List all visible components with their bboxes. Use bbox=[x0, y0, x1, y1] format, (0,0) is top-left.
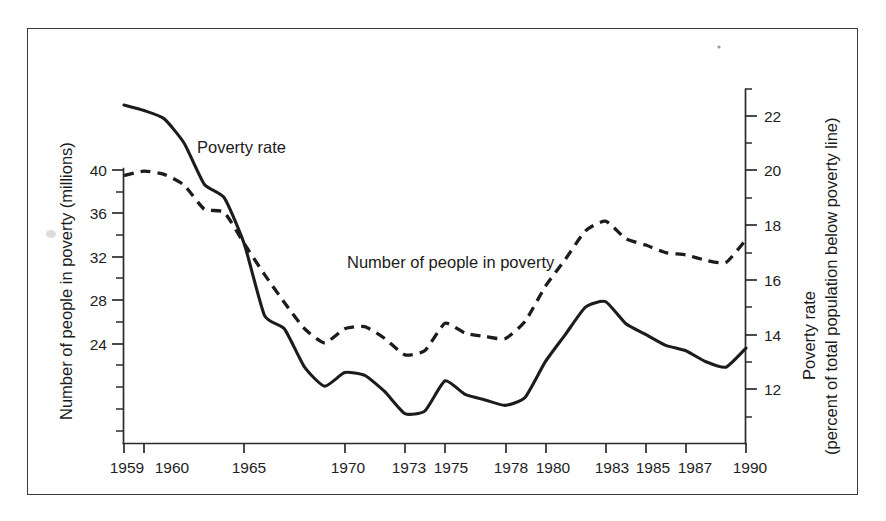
series-annotation-number-in-poverty: Number of people in poverty bbox=[347, 253, 555, 271]
right-axis-tick-labels: 22 20 18 16 14 12 bbox=[764, 108, 782, 398]
x-tick-label-1975: 1975 bbox=[434, 459, 468, 476]
right-tick-label-18: 18 bbox=[764, 217, 781, 234]
left-tick-label-32: 32 bbox=[90, 249, 107, 266]
x-tick-label-1990: 1990 bbox=[733, 459, 768, 476]
right-axis-ticks bbox=[745, 89, 757, 417]
left-axis-ticks bbox=[112, 170, 123, 431]
x-tick-label-1985: 1985 bbox=[636, 459, 670, 476]
left-tick-label-24: 24 bbox=[90, 336, 108, 353]
left-axis-title: Number of people in poverty (millions) bbox=[57, 142, 75, 420]
left-tick-label-28: 28 bbox=[90, 292, 107, 309]
series-annotation-poverty-rate: Poverty rate bbox=[197, 138, 286, 156]
chart-canvas: 40 36 32 28 24 22 20 18 16 14 bbox=[0, 0, 886, 521]
right-axis-title-line1: Poverty rate bbox=[800, 291, 818, 380]
right-tick-label-22: 22 bbox=[764, 108, 781, 125]
right-tick-label-14: 14 bbox=[764, 327, 782, 344]
right-tick-label-12: 12 bbox=[764, 381, 781, 398]
left-axis-tick-labels: 40 36 32 28 24 bbox=[90, 162, 108, 353]
x-tick-label-1959: 1959 bbox=[110, 459, 144, 476]
x-tick-label-1983: 1983 bbox=[595, 459, 629, 476]
x-tick-label-1987: 1987 bbox=[678, 459, 712, 476]
scan-speck bbox=[46, 230, 56, 238]
scan-speck bbox=[717, 45, 720, 48]
x-tick-label-1978: 1978 bbox=[494, 459, 528, 476]
x-axis-ticks bbox=[124, 443, 746, 453]
left-tick-label-36: 36 bbox=[90, 205, 107, 222]
x-tick-label-1973: 1973 bbox=[392, 459, 426, 476]
right-axis-title-line2: (percent of total population below pover… bbox=[822, 117, 840, 455]
left-tick-label-40: 40 bbox=[90, 162, 108, 179]
x-tick-label-1965: 1965 bbox=[232, 459, 266, 476]
x-tick-label-1970: 1970 bbox=[331, 459, 366, 476]
x-axis-tick-labels: 1959 1960 1965 1970 1973 1975 1978 1980 … bbox=[110, 459, 768, 476]
figure-container: 40 36 32 28 24 22 20 18 16 14 bbox=[0, 0, 886, 521]
x-tick-label-1960: 1960 bbox=[155, 459, 190, 476]
right-tick-label-16: 16 bbox=[764, 272, 781, 289]
right-tick-label-20: 20 bbox=[764, 162, 782, 179]
x-tick-label-1980: 1980 bbox=[536, 459, 571, 476]
